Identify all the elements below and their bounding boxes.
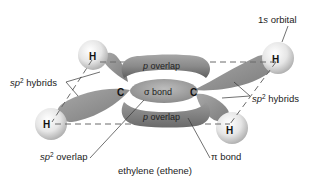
diagram-svg: H H H H C C p overlap σ bond p overlap bbox=[0, 0, 312, 188]
hydrogen-bottom-left: H bbox=[35, 108, 67, 140]
label-1s-orbital: 1s orbital bbox=[258, 14, 297, 25]
atom-label-c-right: C bbox=[190, 87, 197, 98]
atom-label-h-bottom-right: H bbox=[226, 125, 233, 136]
atom-label-c-left: C bbox=[117, 87, 124, 98]
label-sigma-bond: σ bond bbox=[144, 87, 172, 97]
label-p-overlap-bottom: p overlap bbox=[142, 112, 180, 122]
hydrogen-top-right: H bbox=[262, 42, 294, 74]
diagram-caption: ethylene (ethene) bbox=[118, 165, 192, 176]
hydrogen-bottom-right: H bbox=[216, 112, 248, 144]
label-pi-bond: π bond bbox=[211, 151, 241, 162]
hydrogen-top-left: H bbox=[78, 40, 108, 70]
label-sp2-hybrids-right: sp2 hybrids bbox=[252, 93, 299, 104]
label-sp2-hybrids-left: sp2 hybrids bbox=[10, 77, 57, 88]
atom-label-h-top-left: H bbox=[89, 51, 96, 62]
atom-label-h-bottom-left: H bbox=[43, 119, 50, 130]
ethylene-orbital-diagram: H H H H C C p overlap σ bond p overlap bbox=[0, 0, 312, 188]
label-p-overlap-top: p overlap bbox=[142, 61, 180, 71]
label-sp2-overlap: sp2 overlap bbox=[40, 151, 87, 162]
